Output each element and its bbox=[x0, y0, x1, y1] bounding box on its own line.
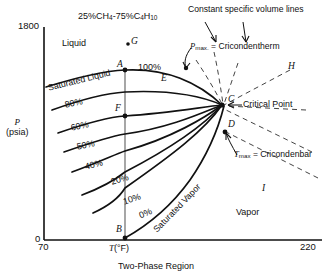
cricondenbar-label: Tmax = Cricondenbar bbox=[234, 150, 312, 160]
x-axis-units: (°F) bbox=[114, 243, 129, 253]
point-dot-A bbox=[123, 68, 128, 73]
mixture-pct2: 75% bbox=[116, 11, 134, 21]
point-label-B: B bbox=[116, 225, 122, 235]
mixture-title: 25%CH4-75%C4H10 bbox=[78, 12, 157, 22]
liquid-region-label: Liquid bbox=[62, 39, 86, 48]
y-axis-title: P (psia) bbox=[6, 118, 29, 137]
quality-label-100: 100% bbox=[138, 63, 161, 72]
cricondentherm-equals: = Cricondentherm bbox=[211, 41, 280, 51]
cricondenbar-equals: = Cricondenbar bbox=[253, 149, 312, 159]
phase-diagram-figure bbox=[0, 0, 332, 278]
point-label-I: I bbox=[262, 184, 265, 194]
cricondentherm-label: Pmax. = Cricondentherm bbox=[190, 42, 280, 52]
point-label-D: D bbox=[228, 120, 235, 130]
quality-curves bbox=[46, 70, 224, 238]
point-dot-E bbox=[184, 66, 188, 70]
arrow-cv-left bbox=[205, 22, 216, 42]
point-dot-C bbox=[219, 102, 224, 107]
point-dot-G bbox=[126, 42, 130, 46]
cricondenbar-sub: max bbox=[239, 152, 251, 159]
figure-caption: Two-Phase Region bbox=[118, 262, 194, 271]
x-axis-title: T(°F) bbox=[109, 244, 129, 253]
mixture-pct1: 25% bbox=[78, 11, 96, 21]
point-label-F: F bbox=[115, 104, 121, 114]
x-tick-70: 70 bbox=[38, 242, 49, 252]
cricondentherm-sub: max. bbox=[195, 44, 208, 51]
constant-volume-label: Constant specific volume lines bbox=[188, 5, 304, 14]
vapor-region-label: Vapor bbox=[236, 208, 259, 217]
y-axis-units: (psia) bbox=[6, 128, 29, 137]
cv-line-6 bbox=[226, 110, 312, 152]
mixture-comp1: CH bbox=[96, 11, 109, 21]
y-tick-1800: 1800 bbox=[18, 21, 39, 31]
y-axis-symbol: P bbox=[6, 118, 29, 127]
mixture-comp2-sub2: 10 bbox=[150, 14, 157, 21]
point-label-E: E bbox=[161, 74, 167, 84]
point-label-G: G bbox=[131, 37, 138, 47]
critical-point-label: Critical Point bbox=[243, 100, 292, 109]
point-label-A: A bbox=[117, 60, 123, 70]
x-tick-220: 220 bbox=[300, 242, 316, 252]
point-dot-D bbox=[223, 130, 228, 135]
point-label-H: H bbox=[288, 62, 295, 72]
point-label-C: C bbox=[228, 95, 234, 105]
point-dot-F bbox=[123, 114, 128, 119]
point-dot-B bbox=[123, 236, 128, 241]
cv-line-2 bbox=[214, 52, 223, 104]
